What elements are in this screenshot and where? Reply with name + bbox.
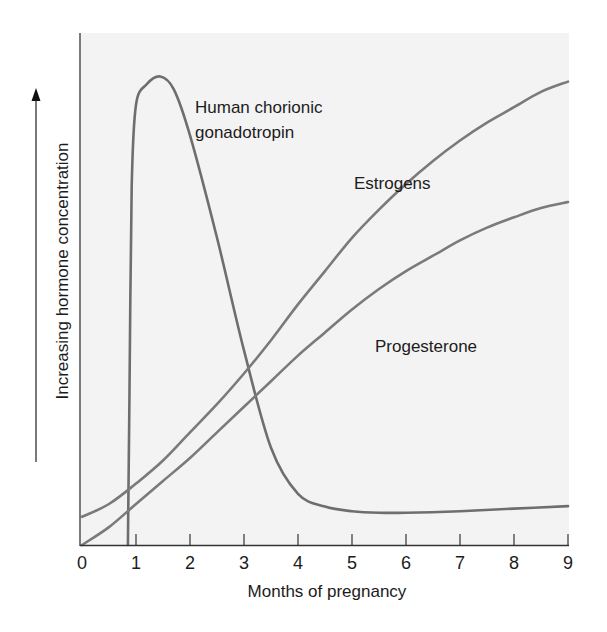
x-tick-label: 7 xyxy=(455,553,465,573)
x-tick-label: 4 xyxy=(293,553,303,573)
x-axis-title: Months of pregnancy xyxy=(248,582,407,601)
up-arrow-icon xyxy=(32,88,41,101)
hcg-label-line1: Human chorionic xyxy=(195,98,323,117)
x-tick-label: 5 xyxy=(347,553,357,573)
y-axis-title: Increasing hormone concentration xyxy=(53,142,72,399)
x-tick-label: 9 xyxy=(563,553,573,573)
x-axis-tick-labels: 0123456789 xyxy=(77,553,573,573)
x-tick-label: 3 xyxy=(239,553,249,573)
x-tick-label: 2 xyxy=(185,553,195,573)
progesterone-label: Progesterone xyxy=(375,337,477,356)
x-tick-label: 6 xyxy=(401,553,411,573)
hormone-chart: 0123456789 Months of pregnancy Increasin… xyxy=(0,0,607,632)
x-tick-label: 1 xyxy=(131,553,141,573)
x-tick-label: 8 xyxy=(509,553,519,573)
x-tick-label: 0 xyxy=(77,553,87,573)
estrogens-label: Estrogens xyxy=(354,174,431,193)
hcg-label-line2: gonadotropin xyxy=(195,123,294,142)
